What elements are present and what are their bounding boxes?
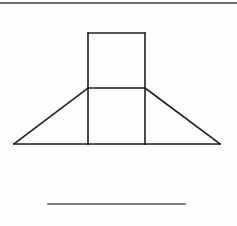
geometric-figure-svg bbox=[0, 0, 237, 226]
figure-canvas bbox=[0, 0, 237, 226]
canvas-background bbox=[0, 0, 237, 226]
